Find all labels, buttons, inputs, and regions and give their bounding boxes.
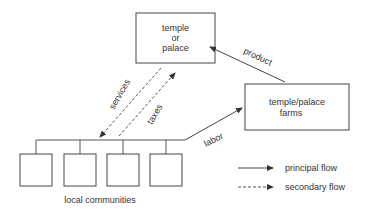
- legend: principal flow secondary flow: [238, 163, 346, 192]
- community-box-3: [107, 154, 139, 186]
- community-box-4: [150, 154, 182, 186]
- farms-label-line1: temple/palace: [269, 97, 325, 107]
- taxes-label: taxes: [145, 102, 165, 126]
- labor-flow: labor: [185, 108, 242, 149]
- legend-secondary-label: secondary flow: [285, 182, 346, 192]
- farms-label-line2: farms: [280, 108, 303, 118]
- product-flow: product: [210, 46, 285, 82]
- temple-label-line3: palace: [162, 43, 189, 53]
- community-box-2: [64, 154, 96, 186]
- local-communities: local communities: [20, 154, 182, 205]
- temple-palace-node: temple or palace: [136, 13, 215, 63]
- community-box-1: [20, 154, 52, 186]
- communities-label: local communities: [64, 195, 136, 205]
- services-label: services: [107, 77, 132, 111]
- temple-label-line1: temple: [162, 23, 189, 33]
- farms-node: temple/palace farms: [245, 84, 349, 130]
- economy-flow-diagram: temple or palace temple/palace farms pro…: [0, 0, 367, 217]
- communities-bus: [36, 140, 185, 154]
- services-flow: services: [100, 68, 161, 137]
- labor-label: labor: [202, 131, 224, 149]
- legend-principal-label: principal flow: [285, 163, 338, 173]
- temple-label-line2: or: [171, 33, 179, 43]
